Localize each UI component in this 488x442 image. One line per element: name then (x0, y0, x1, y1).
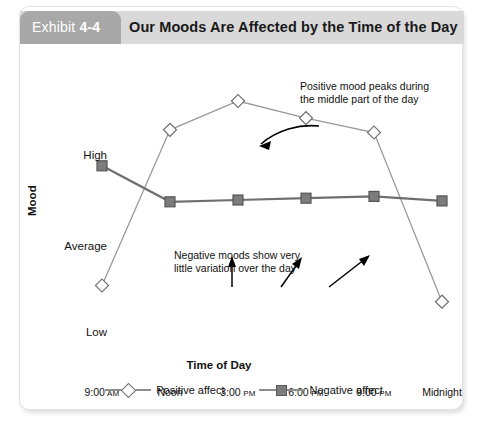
arrow-negative-3 (329, 259, 365, 287)
annotation-positive-line1: Positive mood peaks during (300, 80, 429, 93)
data-point-diamond-5 (435, 295, 448, 308)
y-tick-high: High (67, 149, 107, 161)
exhibit-tab-number: 4-4 (80, 19, 101, 35)
data-point-square-1 (165, 197, 175, 207)
annotation-negative-line2: little variation over the day (174, 262, 300, 275)
data-point-square-4 (369, 191, 379, 201)
exhibit-tab: Exhibit 4-4 (20, 11, 121, 44)
data-point-square-3 (301, 193, 311, 203)
exhibit-tab-label: Exhibit 4-4 (32, 19, 100, 35)
legend-line-positive (105, 389, 151, 391)
legend-label-negative: Negative affect (310, 384, 383, 396)
data-point-diamond-4 (367, 126, 380, 139)
diamond-marker-icon (120, 382, 136, 398)
data-point-diamond-1 (163, 123, 176, 136)
exhibit-title: Our Moods Are Affected by the Time of th… (129, 19, 458, 35)
chart-legend: Positive affect Negative affect (0, 384, 488, 396)
arrow-head-negative-3 (359, 255, 370, 266)
annotation-negative-mood: Negative moods show very little variatio… (174, 249, 300, 275)
data-point-diamond-2 (231, 94, 244, 107)
square-marker-icon (276, 385, 287, 396)
data-point-diamond-3 (299, 112, 312, 125)
series-line-square (102, 166, 442, 202)
legend-item-positive: Positive affect (105, 384, 224, 396)
annotation-negative-line1: Negative moods show very (174, 249, 300, 262)
y-tick-low: Low (69, 326, 107, 338)
exhibit-tab-prefix: Exhibit (32, 19, 75, 35)
annotation-positive-mood: Positive mood peaks during the middle pa… (300, 80, 429, 106)
x-axis-title-text: Time of Day (187, 359, 252, 371)
legend-line-negative (259, 389, 305, 391)
arrow-positive-peak (261, 126, 319, 144)
data-point-square-2 (233, 195, 243, 205)
legend-label-positive: Positive affect (156, 384, 224, 396)
y-axis-title: Mood (26, 185, 38, 216)
data-point-diamond-0 (95, 279, 108, 292)
legend-item-negative: Negative affect (259, 384, 383, 396)
annotation-positive-line2: the middle part of the day (300, 93, 429, 106)
arrow-head-positive (259, 141, 271, 150)
data-point-square-0 (97, 161, 107, 171)
data-point-square-5 (437, 196, 447, 206)
y-tick-average: Average (51, 240, 107, 252)
x-axis-title: Time of Day (0, 359, 488, 371)
